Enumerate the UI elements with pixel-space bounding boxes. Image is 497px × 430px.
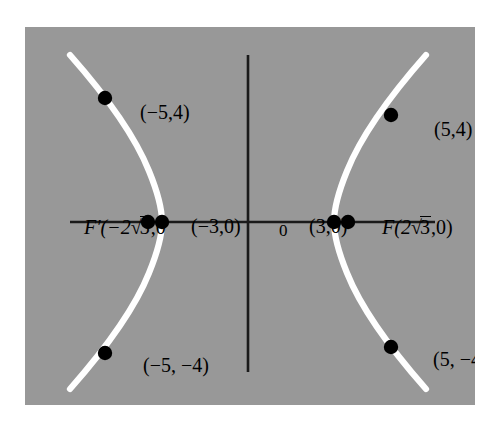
label-lower-right-point: (5, −4) (433, 349, 475, 369)
point-lower-right (384, 340, 398, 354)
label-upper-left-point: (−5,4) (140, 102, 190, 122)
label-lower-left-point: (−5, −4) (143, 355, 209, 375)
left-focus-prefix: F′(−2 (84, 216, 131, 238)
plot-area: (−5,4) (5,4) (−5, −4) (5, −4) (−3,0) (3,… (25, 27, 475, 405)
label-origin: 0 (279, 222, 288, 239)
left-focus-radicand: 3 (140, 216, 151, 237)
left-focus-suffix: ,0 (151, 216, 166, 238)
label-left-focus: F′(−2√3,0 (84, 216, 166, 237)
right-focus-radicand: 3 (420, 216, 431, 237)
point-lower-left (98, 346, 112, 360)
label-upper-right-point: (5,4) (434, 119, 472, 139)
label-right-vertex: (3,0) (309, 216, 347, 236)
point-upper-left (98, 91, 112, 105)
figure-root: (−5,4) (5,4) (−5, −4) (5, −4) (−3,0) (3,… (0, 0, 497, 430)
label-right-focus: F(2√3,0) (382, 216, 453, 237)
label-left-vertex: (−3,0) (191, 216, 241, 236)
right-focus-suffix: ,0) (431, 216, 453, 238)
right-focus-prefix: F(2 (382, 216, 411, 238)
point-upper-right (384, 108, 398, 122)
